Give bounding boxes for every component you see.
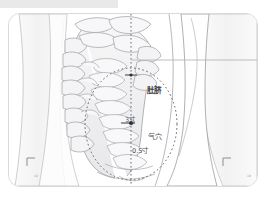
anatomy-illustration (9, 14, 257, 186)
navel-point (129, 73, 132, 76)
corner-mark-right: 19 (247, 174, 251, 178)
label-point-qixue: 气穴 (148, 131, 162, 141)
label-distance-lower: 0.5寸 (132, 145, 149, 155)
corner-mark-left: 18 (34, 174, 38, 178)
diagram-canvas: 肚脐 3寸 气穴 0.5寸 18 19 (0, 0, 266, 200)
label-navel: 肚脐 (147, 84, 161, 95)
illustration-card: 肚脐 3寸 气穴 0.5寸 18 19 (8, 13, 258, 187)
label-distance-upper: 3寸 (125, 114, 136, 124)
top-bar (0, 0, 118, 8)
